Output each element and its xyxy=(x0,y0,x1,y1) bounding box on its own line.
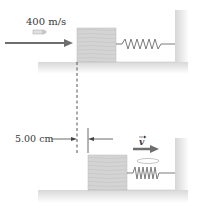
floor-bottom xyxy=(38,190,188,203)
bullet-ghost-icon xyxy=(137,159,159,164)
bullet-icon xyxy=(33,30,47,34)
arrow-head-icon xyxy=(150,145,159,153)
bottom-scene: v 5.00 cm xyxy=(15,128,189,203)
top-scene: 400 m/s xyxy=(5,10,189,74)
wooden-block-top xyxy=(77,28,116,62)
arrow-head-icon xyxy=(64,39,73,47)
wall-top xyxy=(175,10,189,65)
floor-top xyxy=(38,62,188,74)
spring-top xyxy=(116,39,175,49)
bullet-speed-label: 400 m/s xyxy=(26,16,66,27)
spring-bottom xyxy=(127,167,175,179)
bullet-block-spring-diagram: 400 m/s v 5.00 cm xyxy=(0,0,199,215)
wall-bottom xyxy=(175,138,189,193)
arrow-head-icon xyxy=(88,137,94,141)
velocity-vector-label: v xyxy=(139,137,145,147)
displacement-label: 5.00 cm xyxy=(15,133,54,144)
wooden-block-bottom xyxy=(88,155,127,190)
arrow-head-icon xyxy=(71,137,77,141)
